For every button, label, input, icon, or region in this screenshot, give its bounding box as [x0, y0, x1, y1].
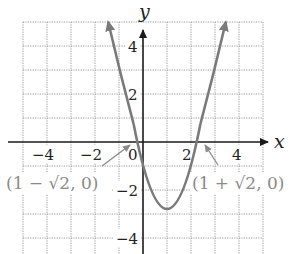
- x-axis-label: x: [274, 130, 285, 152]
- y-tick-label: −2: [116, 182, 138, 200]
- y-tick-label: 4: [128, 38, 138, 56]
- y-tick-label: −4: [116, 230, 138, 248]
- x-tick-label: −4: [32, 146, 54, 164]
- left-root-pointer: [102, 145, 130, 166]
- parabola-right-branch: [200, 22, 225, 124]
- x-tick-label: 4: [232, 146, 242, 164]
- parabola-graph: x y −4 −2 0 2 4 4 2 −2 −4 (1 − √2, 0) (1…: [0, 0, 297, 254]
- left-root-annotation: (1 − √2, 0): [6, 173, 98, 193]
- x-tick-label: −2: [80, 146, 102, 164]
- right-root-annotation: (1 + √2, 0): [192, 173, 284, 193]
- x-tick-label: 0: [128, 146, 138, 164]
- y-axis-label: y: [138, 0, 150, 22]
- y-tick-label: 2: [128, 86, 138, 104]
- x-tick-label: 2: [182, 146, 192, 164]
- right-root-pointer: [205, 145, 218, 165]
